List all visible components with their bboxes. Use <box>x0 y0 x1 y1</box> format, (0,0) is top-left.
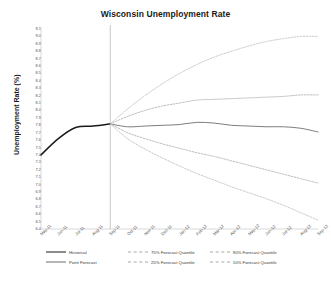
legend-row-bottom: Point Forecast 25% Forecast Quantile 10%… <box>46 257 286 267</box>
series-line-90-forecast-quantile <box>110 36 318 124</box>
legend-item-q10[interactable]: 10% Forecast Quantile <box>210 260 286 265</box>
legend-swatch-line-icon <box>46 250 66 255</box>
legend-swatch-dashed-line-icon <box>128 250 148 255</box>
series-line-75-forecast-quantile <box>110 95 318 124</box>
plot-area <box>0 0 331 282</box>
legend-item-historical[interactable]: Historical <box>46 250 128 255</box>
chart-legend: Historical 75% Forecast Quantile 90% For… <box>46 247 286 267</box>
legend-item-q75[interactable]: 75% Forecast Quantile <box>128 250 210 255</box>
legend-swatch-dashed-line-icon <box>210 250 230 255</box>
legend-label: 90% Forecast Quantile <box>233 250 277 255</box>
legend-row-top: Historical 75% Forecast Quantile 90% For… <box>46 247 286 257</box>
series-line-10-forecast-quantile <box>110 124 318 220</box>
legend-label: Point Forecast <box>69 260 97 265</box>
legend-item-q90[interactable]: 90% Forecast Quantile <box>210 250 286 255</box>
series-line-historical <box>41 124 110 155</box>
legend-label: 75% Forecast Quantile <box>151 250 195 255</box>
legend-item-point-forecast[interactable]: Point Forecast <box>46 260 128 265</box>
legend-item-q25[interactable]: 25% Forecast Quantile <box>128 260 210 265</box>
legend-swatch-dashed-line-icon <box>128 260 148 265</box>
legend-label: 10% Forecast Quantile <box>233 260 277 265</box>
series-line-point-forecast <box>110 122 318 132</box>
legend-swatch-line-icon <box>46 260 66 265</box>
chart-container: Wisconsin Unemployment Rate Unemployment… <box>0 0 331 282</box>
legend-swatch-dashed-line-icon <box>210 260 230 265</box>
series-line-25-forecast-quantile <box>110 124 318 183</box>
legend-label: Historical <box>69 250 87 255</box>
legend-label: 25% Forecast Quantile <box>151 260 195 265</box>
